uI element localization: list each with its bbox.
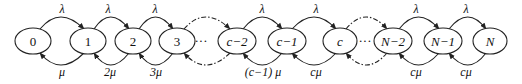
rate-lambda-1: λ bbox=[104, 2, 110, 16]
rate-lambda-6: λ bbox=[462, 2, 468, 16]
edge-3-c2 bbox=[184, 17, 230, 29]
edge-c1-c2 bbox=[243, 53, 282, 65]
edge-1-2 bbox=[94, 17, 129, 29]
rate-mu-2: 3μ bbox=[149, 65, 162, 79]
edge-c-c1 bbox=[292, 53, 336, 65]
edge-c-N2 bbox=[346, 17, 387, 29]
edge-c1-c bbox=[292, 17, 336, 29]
svg-text:1: 1 bbox=[85, 34, 92, 49]
rate-lambda-2: λ bbox=[151, 2, 157, 16]
rate-mu-6: cμ bbox=[460, 65, 471, 79]
state-3: 3 bbox=[159, 28, 195, 54]
rate-mu-1: 2μ bbox=[104, 65, 116, 79]
edge-3-2 bbox=[139, 53, 173, 65]
state-c-minus-1: c−1 bbox=[268, 28, 306, 54]
svg-text:c−2: c−2 bbox=[226, 34, 248, 49]
state-N: N bbox=[473, 28, 507, 54]
state-N-minus-1: N−1 bbox=[424, 28, 462, 54]
edge-N2-c bbox=[346, 53, 387, 65]
svg-text:3: 3 bbox=[174, 34, 181, 49]
state-N-minus-2: N−2 bbox=[374, 28, 412, 54]
edge-N-N1 bbox=[449, 53, 486, 65]
ellipsis-1: ··· bbox=[195, 33, 208, 48]
edge-0-1 bbox=[40, 17, 84, 29]
rate-lambda-0: λ bbox=[58, 2, 64, 16]
rate-lambda-5: λ bbox=[412, 2, 418, 16]
svg-text:2: 2 bbox=[130, 34, 137, 49]
edge-c2-3 bbox=[184, 53, 230, 65]
edge-N1-N bbox=[449, 17, 486, 29]
state-2: 2 bbox=[115, 28, 151, 54]
state-0: 0 bbox=[15, 28, 51, 54]
svg-text:N−2: N−2 bbox=[380, 34, 405, 49]
edge-2-1 bbox=[94, 53, 129, 65]
svg-text:0: 0 bbox=[30, 34, 37, 49]
ellipsis-2: ··· bbox=[359, 33, 372, 48]
edge-N1-N2 bbox=[399, 53, 439, 65]
svg-text:c−1: c−1 bbox=[276, 34, 297, 49]
rate-mu-3: (c−1) μ bbox=[245, 65, 281, 79]
rate-mu-0: μ bbox=[58, 65, 65, 79]
edge-1-0 bbox=[40, 53, 84, 65]
state-1: 1 bbox=[70, 28, 106, 54]
edge-2-3 bbox=[139, 17, 173, 29]
svg-text:c: c bbox=[337, 34, 343, 49]
rate-mu-4: cμ bbox=[310, 65, 321, 79]
edge-N2-N1 bbox=[399, 17, 439, 29]
svg-text:N: N bbox=[485, 34, 496, 49]
svg-text:N−1: N−1 bbox=[430, 34, 455, 49]
rate-lambda-4: λ bbox=[312, 2, 318, 16]
markov-chain-diagram: 0 1 2 3 ··· c−2 c−1 c ··· N−2 N−1 N λ λ … bbox=[0, 0, 522, 84]
state-c-minus-2: c−2 bbox=[218, 28, 256, 54]
rate-lambda-3: λ bbox=[258, 2, 264, 16]
rate-mu-5: cμ bbox=[410, 65, 421, 79]
state-c: c bbox=[323, 28, 357, 54]
edge-c2-c1 bbox=[243, 17, 282, 29]
